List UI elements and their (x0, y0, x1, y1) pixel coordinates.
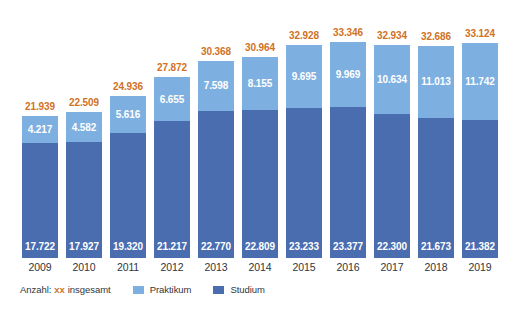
x-axis-tick-label: 2009 (22, 261, 58, 274)
legend-prefix: Anzahl: (20, 284, 51, 295)
bar-segment-value-studium: 19.320 (110, 241, 146, 252)
x-axis-tick-label: 2011 (110, 261, 146, 274)
bar-segment-value-praktikum: 8.155 (248, 78, 273, 89)
x-axis-tick-label: 2016 (330, 261, 366, 274)
bar-total-label: 27.872 (154, 62, 190, 73)
bar-segment-studium[interactable]: 22.300 (374, 114, 410, 258)
bar-group[interactable]: 32.68611.01321.673 (418, 46, 454, 258)
x-axis-tick-label: 2019 (462, 261, 498, 274)
bar-segment-praktikum[interactable]: 6.655 (154, 77, 190, 120)
bar-segment-value-studium: 21.217 (154, 241, 190, 252)
bar-segment-value-praktikum: 5.616 (116, 109, 141, 120)
legend-label-studium: Studium (230, 284, 265, 295)
bar-segment-value-studium: 23.233 (286, 241, 322, 252)
x-axis-tick-label: 2013 (198, 261, 234, 274)
bar-group[interactable]: 33.3469.96923.377 (330, 42, 366, 258)
bar-group[interactable]: 32.93410.63422.300 (374, 45, 410, 258)
bar-segment-value-praktikum: 4.582 (72, 122, 97, 133)
legend-entry-praktikum: Praktikum (133, 284, 192, 295)
bar-segment-value-praktikum: 7.598 (204, 80, 229, 91)
bar-group[interactable]: 27.8726.65521.217 (154, 77, 190, 258)
bar-segment-praktikum[interactable]: 5.616 (110, 96, 146, 132)
bar-segment-value-studium: 17.722 (22, 241, 58, 252)
legend-label-praktikum: Praktikum (150, 284, 192, 295)
bar-segment-praktikum[interactable]: 10.634 (374, 45, 410, 114)
bar-total-label: 32.686 (418, 31, 454, 42)
bar-total-label: 32.934 (374, 30, 410, 41)
bar-total-label: 33.124 (462, 28, 498, 39)
x-axis-tick-label: 2012 (154, 261, 190, 274)
bar-segment-studium[interactable]: 17.722 (22, 143, 58, 258)
bar-total-label: 30.964 (242, 42, 278, 53)
bar-segment-praktikum[interactable]: 9.695 (286, 45, 322, 108)
x-axis: 2009201020112012201320142015201620172018… (0, 258, 519, 278)
bar-segment-value-studium: 17.927 (66, 241, 102, 252)
bar-group[interactable]: 21.9394.21717.722 (22, 116, 58, 258)
bar-segment-praktikum[interactable]: 9.969 (330, 42, 366, 107)
plot-area: 21.9394.21717.72222.5094.58217.92724.936… (0, 0, 519, 258)
stacked-bar-chart: 21.9394.21717.72222.5094.58217.92724.936… (0, 0, 519, 311)
bar-segment-value-studium: 23.377 (330, 241, 366, 252)
bar-segment-studium[interactable]: 21.217 (154, 121, 190, 258)
bar-total-label: 32.928 (286, 30, 322, 41)
bar-group[interactable]: 24.9365.61619.320 (110, 96, 146, 258)
bar-segment-praktikum[interactable]: 7.598 (198, 61, 234, 110)
bar-segment-studium[interactable]: 23.233 (286, 108, 322, 258)
bar-group[interactable]: 30.9648.15522.809 (242, 57, 278, 258)
bar-segment-value-studium: 22.770 (198, 241, 234, 252)
bar-segment-studium[interactable]: 19.320 (110, 133, 146, 258)
bar-segment-praktikum[interactable]: 11.742 (462, 43, 498, 119)
bar-segment-studium[interactable]: 17.927 (66, 142, 102, 258)
bar-segment-praktikum[interactable]: 4.582 (66, 112, 102, 142)
x-axis-tick-label: 2018 (418, 261, 454, 274)
bar-segment-value-studium: 22.300 (374, 241, 410, 252)
bar-total-label: 21.939 (22, 101, 58, 112)
legend-swatch-studium-icon (213, 286, 224, 294)
bar-total-label: 22.509 (66, 97, 102, 108)
bar-segment-value-praktikum: 10.634 (377, 74, 407, 85)
bar-segment-value-studium: 22.809 (242, 241, 278, 252)
chart-legend: Anzahl: xx insgesamt Praktikum Studium (20, 284, 287, 295)
bar-segment-value-studium: 21.382 (462, 241, 498, 252)
x-axis-tick-label: 2015 (286, 261, 322, 274)
bar-group[interactable]: 30.3687.59822.770 (198, 61, 234, 258)
bar-segment-value-praktikum: 6.655 (160, 94, 185, 105)
x-axis-tick-label: 2017 (374, 261, 410, 274)
bar-total-label: 24.936 (110, 81, 146, 92)
bar-group[interactable]: 33.12411.74221.382 (462, 43, 498, 258)
bar-segment-studium[interactable]: 23.377 (330, 107, 366, 258)
bar-segment-value-studium: 21.673 (418, 241, 454, 252)
legend-insgesamt-label: insgesamt (68, 284, 111, 295)
bar-segment-value-praktikum: 9.695 (292, 71, 317, 82)
bar-segment-studium[interactable]: 22.770 (198, 111, 234, 258)
bar-segment-praktikum[interactable]: 4.217 (22, 116, 58, 143)
bar-segment-value-praktikum: 11.742 (465, 76, 494, 87)
bar-segment-value-praktikum: 11.013 (421, 76, 450, 87)
legend-entry-studium: Studium (213, 284, 265, 295)
bar-total-label: 33.346 (330, 27, 366, 38)
legend-swatch-praktikum-icon (133, 286, 144, 294)
bar-total-label: 30.368 (198, 46, 234, 57)
bar-segment-studium[interactable]: 22.809 (242, 110, 278, 258)
bar-segment-praktikum[interactable]: 11.013 (418, 46, 454, 117)
bar-segment-studium[interactable]: 21.382 (462, 120, 498, 259)
bar-group[interactable]: 22.5094.58217.927 (66, 112, 102, 258)
bar-group[interactable]: 32.9289.69523.233 (286, 45, 322, 258)
bar-segment-value-praktikum: 9.969 (336, 69, 361, 80)
legend-xx-token: xx (54, 284, 64, 295)
bar-segment-praktikum[interactable]: 8.155 (242, 57, 278, 110)
x-axis-tick-label: 2014 (242, 261, 278, 274)
bar-segment-value-praktikum: 4.217 (28, 124, 53, 135)
bar-segment-studium[interactable]: 21.673 (418, 118, 454, 258)
x-axis-tick-label: 2010 (66, 261, 102, 274)
